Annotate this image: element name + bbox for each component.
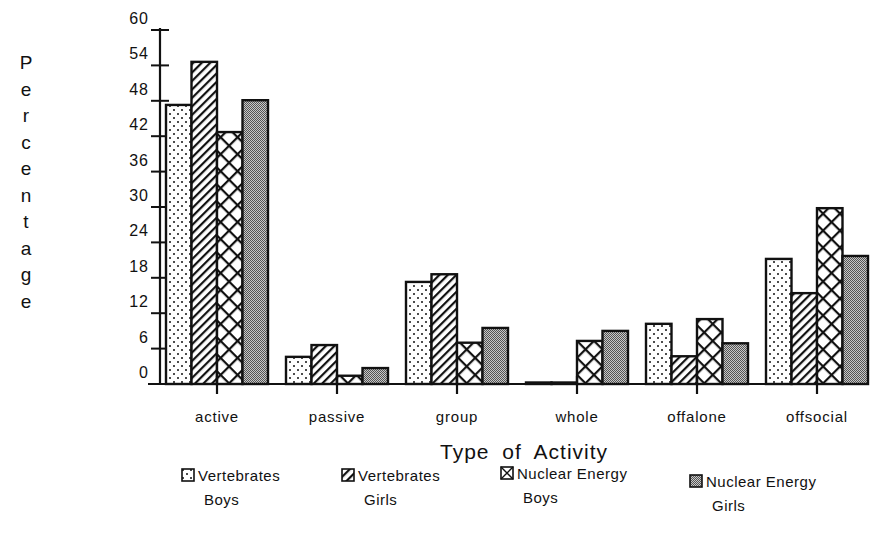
y-tick-label: 0 — [139, 364, 149, 381]
y-tick-label: 6 — [139, 329, 149, 346]
y-tick-label: 60 — [129, 10, 149, 27]
bar-whole-nuclear-energy-boys — [577, 341, 603, 384]
y-axis-label-letter: a — [21, 236, 32, 263]
stipple-pattern-swatch-icon — [689, 474, 703, 488]
y-axis-label-letter: e — [21, 77, 32, 104]
bar-passive-vertebrates-boys — [286, 357, 312, 384]
crosshatch-swatch-icon — [500, 466, 514, 480]
bar-active-nuclear-energy-boys — [217, 132, 243, 384]
bar-offalone-vertebrates-boys — [646, 324, 672, 384]
y-tick-label: 54 — [129, 45, 149, 62]
x-tick-label: active — [195, 408, 239, 425]
legend-label: Vertebrates — [358, 464, 440, 488]
y-tick-label: 42 — [129, 116, 149, 133]
y-axis-label-letter: t — [23, 209, 28, 236]
y-tick-label: 36 — [129, 152, 149, 169]
legend-label: Girls — [706, 494, 816, 518]
bar-active-nuclear-energy-girls — [243, 100, 269, 384]
legend-item-nuclear-energy-boys: Nuclear EnergyBoys — [500, 462, 627, 510]
bar-offalone-nuclear-energy-boys — [697, 319, 723, 384]
x-tick-label: passive — [309, 408, 365, 425]
y-axis-label-letter: g — [21, 262, 32, 289]
bars — [166, 62, 868, 384]
x-tick-label: offalone — [667, 408, 727, 425]
bar-active-vertebrates-girls — [192, 62, 218, 384]
legend-item-vertebrates-boys: VertebratesBoys — [181, 464, 280, 512]
x-axis-label: Type of Activity — [440, 440, 608, 464]
y-axis-label-letter: e — [21, 289, 32, 316]
bar-active-vertebrates-boys — [166, 105, 192, 384]
legend: VertebratesBoys VertebratesGirls Nuclear… — [0, 462, 883, 536]
y-axis-label-letter: r — [23, 103, 29, 130]
y-tick-label: 12 — [129, 293, 149, 310]
bar-offalone-nuclear-energy-girls — [723, 343, 749, 384]
bar-offsocial-vertebrates-boys — [766, 259, 792, 384]
diagonal-hatch-swatch-icon — [341, 468, 355, 482]
y-tick-label: 30 — [129, 187, 149, 204]
bar-passive-nuclear-energy-boys — [337, 376, 363, 384]
bar-passive-nuclear-energy-girls — [363, 368, 389, 384]
x-tick-label: group — [436, 408, 478, 425]
y-tick-label: 48 — [129, 81, 149, 98]
y-axis-label: Percentage — [14, 50, 38, 315]
dots-pattern-swatch-icon — [181, 468, 195, 482]
bar-offsocial-nuclear-energy-boys — [817, 208, 843, 384]
legend-label: Boys — [198, 488, 280, 512]
bar-offsocial-vertebrates-girls — [792, 293, 818, 384]
y-axis-label-letter: n — [21, 183, 32, 210]
legend-label: Vertebrates — [198, 464, 280, 488]
y-tick-label: 18 — [129, 258, 149, 275]
y-tick-label: 24 — [129, 222, 149, 239]
x-tick-label: whole — [554, 408, 598, 425]
legend-item-vertebrates-girls: VertebratesGirls — [341, 464, 440, 512]
bar-passive-vertebrates-girls — [312, 345, 338, 384]
bar-group-vertebrates-boys — [406, 282, 432, 384]
y-axis-label-letter: P — [20, 50, 33, 77]
bar-whole-nuclear-energy-girls — [603, 331, 629, 384]
legend-label: Nuclear Energy — [517, 462, 627, 486]
bar-group-vertebrates-girls — [432, 274, 458, 384]
bar-group-nuclear-energy-girls — [483, 328, 509, 384]
x-axis: activepassivegroupwholeoffaloneoffsocial — [148, 376, 868, 425]
y-axis: 06121824303642485460 — [129, 10, 169, 384]
bar-offalone-vertebrates-girls — [672, 356, 698, 384]
legend-label: Nuclear Energy — [706, 470, 816, 494]
x-tick-label: offsocial — [786, 408, 848, 425]
bar-offsocial-nuclear-energy-girls — [843, 256, 869, 384]
legend-label: Boys — [517, 486, 627, 510]
y-axis-label-letter: c — [21, 130, 31, 157]
bar-group-nuclear-energy-boys — [457, 343, 483, 384]
legend-item-nuclear-energy-girls: Nuclear EnergyGirls — [689, 470, 816, 518]
y-axis-label-letter: e — [21, 156, 32, 183]
legend-label: Girls — [358, 488, 440, 512]
